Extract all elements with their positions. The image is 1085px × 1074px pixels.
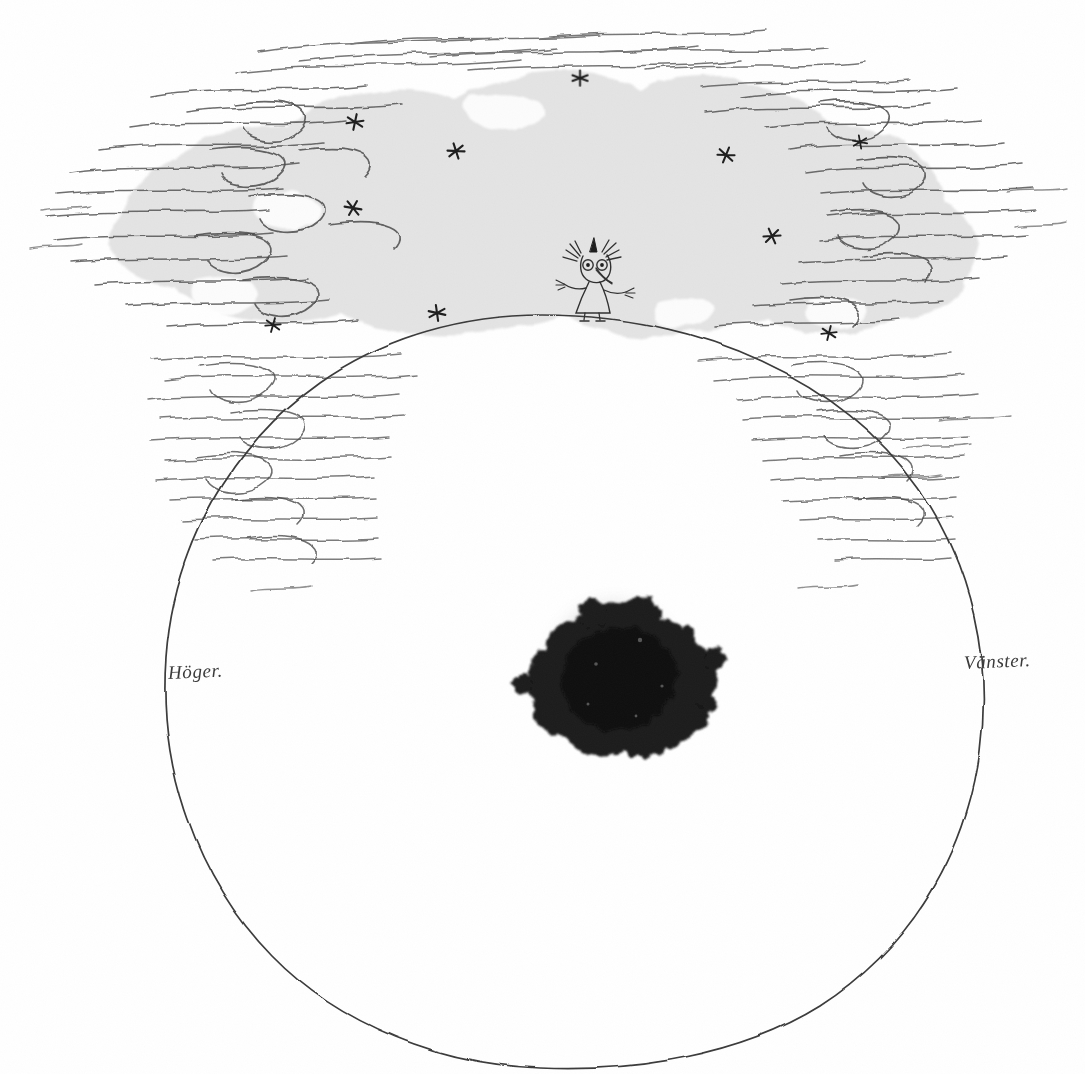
paper-grain <box>0 0 1085 1074</box>
label-vanster: Vänster. <box>964 649 1031 674</box>
label-hoger: Höger. <box>168 660 224 684</box>
drawing-surface <box>0 0 1085 1074</box>
illustration-canvas: Höger. Vänster. <box>0 0 1085 1074</box>
